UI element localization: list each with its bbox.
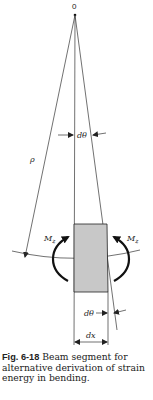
figure-caption: Fig. 6-18 Beam segment for alternative d…	[2, 352, 152, 384]
moment-right-arrow	[114, 237, 129, 281]
beam-segment-diagram: 0 ρ dθ Mz Mz dθ dx	[0, 0, 153, 345]
moment-right-label: Mz	[126, 234, 139, 244]
radius-label: ρ	[29, 155, 35, 164]
dtheta-top-label: dθ	[77, 131, 87, 140]
origin-label: 0	[72, 2, 77, 11]
beam-segment	[74, 224, 108, 292]
dtheta-top-arrow-right	[93, 133, 106, 135]
dtheta-bottom-arrow-right	[114, 310, 126, 313]
moment-left-label: Mz	[43, 234, 56, 244]
figure-number: Fig. 6-18	[2, 352, 39, 362]
radius-line	[25, 15, 75, 257]
dx-label: dx	[86, 331, 96, 340]
dtheta-bottom-label: dθ	[84, 309, 94, 318]
vertical-radial-line	[74, 15, 75, 345]
